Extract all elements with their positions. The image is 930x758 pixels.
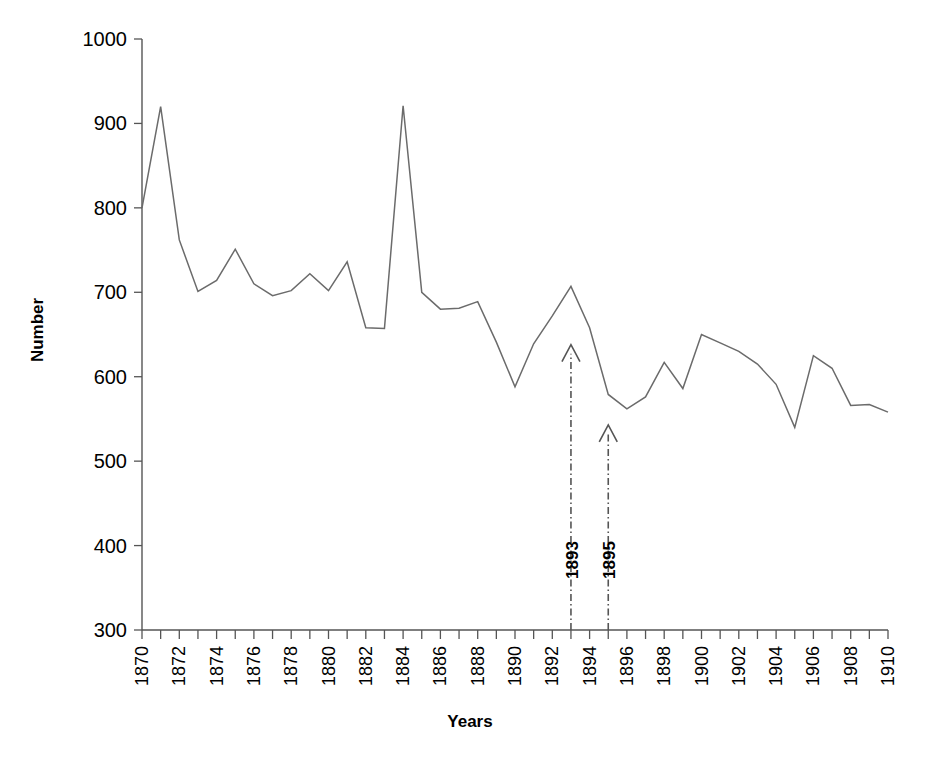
x-tick-label-1902: 1902 bbox=[729, 646, 749, 686]
x-tick-label-1900: 1900 bbox=[692, 646, 712, 686]
x-axis-tick-labels: 1870187218741876187818801882188418861888… bbox=[132, 646, 898, 686]
x-tick-label-1908: 1908 bbox=[841, 646, 861, 686]
x-tick-label-1904: 1904 bbox=[766, 646, 786, 686]
y-axis-tick-labels: 3004005006007008009001000 bbox=[83, 28, 128, 641]
y-tick-label-700: 700 bbox=[94, 281, 127, 303]
y-tick-label-300: 300 bbox=[94, 619, 127, 641]
x-tick-label-1884: 1884 bbox=[393, 646, 413, 686]
x-tick-label-1898: 1898 bbox=[654, 646, 674, 686]
x-tick-label-1876: 1876 bbox=[244, 646, 264, 686]
y-axis-label: Number bbox=[28, 298, 47, 363]
y-tick-label-600: 600 bbox=[94, 366, 127, 388]
annotation-arrow-1895: 1895 bbox=[599, 425, 619, 630]
x-tick-label-1874: 1874 bbox=[207, 646, 227, 686]
x-tick-label-1870: 1870 bbox=[132, 646, 152, 686]
x-tick-label-1886: 1886 bbox=[430, 646, 450, 686]
y-tick-label-1000: 1000 bbox=[83, 28, 128, 50]
x-tick-label-1910: 1910 bbox=[878, 646, 898, 686]
data-series-line bbox=[142, 106, 888, 428]
x-tick-label-1888: 1888 bbox=[468, 646, 488, 686]
x-tick-label-1882: 1882 bbox=[356, 646, 376, 686]
x-tick-label-1896: 1896 bbox=[617, 646, 637, 686]
x-axis-label: Years bbox=[447, 712, 492, 731]
annotation-label-1895: 1895 bbox=[600, 541, 619, 579]
x-axis-ticks bbox=[142, 630, 888, 639]
annotation-arrowhead-1893 bbox=[562, 345, 580, 362]
annotation-arrow-1893: 1893 bbox=[562, 345, 582, 630]
y-tick-label-800: 800 bbox=[94, 197, 127, 219]
x-tick-label-1872: 1872 bbox=[169, 646, 189, 686]
annotation-label-1893: 1893 bbox=[563, 541, 582, 579]
x-tick-label-1906: 1906 bbox=[803, 646, 823, 686]
x-tick-label-1892: 1892 bbox=[542, 646, 562, 686]
y-tick-label-500: 500 bbox=[94, 450, 127, 472]
y-tick-label-900: 900 bbox=[94, 112, 127, 134]
x-tick-label-1880: 1880 bbox=[319, 646, 339, 686]
chart-figure: Number Years 3004005006007008009001000 1… bbox=[0, 0, 930, 758]
x-tick-label-1890: 1890 bbox=[505, 646, 525, 686]
y-tick-label-400: 400 bbox=[94, 535, 127, 557]
annotation-arrows: 18931895 bbox=[562, 345, 619, 630]
x-tick-label-1878: 1878 bbox=[281, 646, 301, 686]
x-tick-label-1894: 1894 bbox=[580, 646, 600, 686]
y-axis-ticks bbox=[134, 39, 142, 630]
line-chart-canvas: Number Years 3004005006007008009001000 1… bbox=[0, 0, 930, 758]
